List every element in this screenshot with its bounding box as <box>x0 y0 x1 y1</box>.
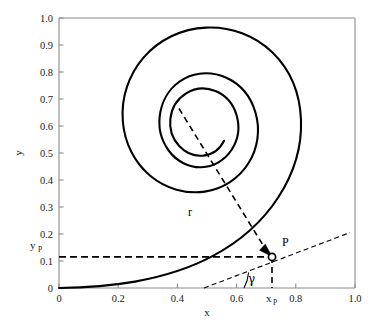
y-tick-label-8: 0.8 <box>40 67 53 78</box>
chart-figure: 0 0.1 0.2 0.3 0.4 0.5 0.6 0.7 0.8 0.9 1.… <box>0 0 376 329</box>
x-p-label-sub: P <box>273 298 277 307</box>
gamma-angle-label: γ <box>248 272 255 286</box>
y-tick-label-6: 0.6 <box>40 121 53 132</box>
y-tick-label-5: 0.5 <box>40 148 53 159</box>
y-axis-title: y <box>12 150 24 156</box>
x-tick-label-5: 1.0 <box>348 293 361 304</box>
y-tick-label-10: 1.0 <box>40 13 53 24</box>
y-tick-label-3: 0.3 <box>40 202 53 213</box>
y-tick-label-0: 0 <box>48 283 53 294</box>
x-tick-label-2: 0.4 <box>171 293 185 304</box>
y-p-label-base: y <box>30 239 36 251</box>
y-tick-label-9: 0.9 <box>40 40 53 51</box>
y-tick-label-4: 0.4 <box>40 175 54 186</box>
y-tick-label-2: 0.2 <box>40 229 53 240</box>
y-p-label-sub: P <box>38 245 42 254</box>
x-tick-label-0: 0 <box>56 293 61 304</box>
y-tick-label-1: 0.1 <box>40 256 53 267</box>
radius-label: r <box>188 205 192 219</box>
x-p-label-base: x <box>266 292 272 304</box>
x-tick-label-1: 0.2 <box>112 293 125 304</box>
x-axis-title: x <box>204 306 210 318</box>
y-tick-label-7: 0.7 <box>40 94 53 105</box>
x-tick-label-3: 0.6 <box>230 293 243 304</box>
x-tick-label-4: 0.8 <box>289 293 302 304</box>
point-p-marker <box>268 253 275 260</box>
point-p-label: P <box>282 235 289 249</box>
spiral-chart-svg: 0 0.1 0.2 0.3 0.4 0.5 0.6 0.7 0.8 0.9 1.… <box>0 0 376 329</box>
